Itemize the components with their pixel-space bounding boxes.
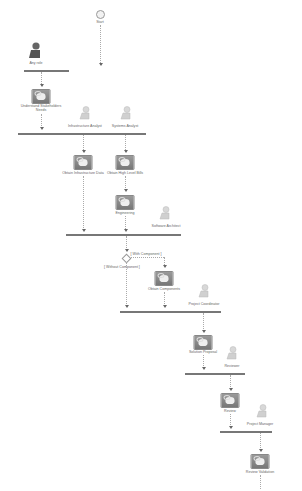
activity-icon [160, 275, 169, 282]
activity-label: Review [224, 409, 236, 413]
person-light-icon [120, 106, 132, 121]
arrow-icon [163, 265, 167, 268]
arrow-icon [124, 189, 128, 192]
start-label: Start [96, 20, 104, 24]
role-infrastructure-analyst [79, 106, 91, 125]
activity-obtain-components[interactable] [155, 271, 174, 286]
activity-understand-stakeholders[interactable] [32, 89, 51, 104]
arrow-icon [229, 388, 233, 391]
arrow-icon [259, 449, 263, 452]
guard-with-component: [ With Component ] [131, 252, 162, 256]
flow-line [125, 216, 126, 229]
arrow-icon [99, 63, 103, 66]
flow-line [164, 292, 165, 306]
start-node [96, 10, 105, 19]
arrow-icon [82, 229, 86, 232]
flow-line [260, 475, 261, 489]
activity-label: Obtain High Level Bills [107, 171, 143, 175]
sync-bar [220, 431, 272, 433]
activity-icon [199, 339, 208, 346]
activity-label: Solution Proposal [189, 350, 217, 354]
role-label: Any role [29, 61, 42, 65]
flow-line [125, 176, 126, 190]
activity-label: Obtain Infrastructure Data [62, 171, 103, 175]
arrow-icon [125, 249, 129, 252]
role-systems-analyst [120, 106, 132, 125]
flow-line [203, 313, 204, 331]
sync-bar [24, 70, 69, 72]
activity-obtain-high-level-bills[interactable] [116, 155, 135, 170]
flow-line [260, 433, 261, 450]
activity-engineering[interactable] [116, 195, 135, 210]
person-light-icon [159, 206, 171, 221]
role-project-coordinator [198, 284, 210, 303]
activity-review[interactable] [221, 393, 240, 408]
activity-icon [37, 93, 46, 100]
person-light-icon [256, 404, 268, 419]
activity-icon [121, 159, 130, 166]
sync-bar [120, 311, 221, 313]
role-project-manager [256, 404, 268, 423]
arrow-icon [124, 150, 128, 153]
arrow-icon [202, 330, 206, 333]
activity-icon [256, 458, 265, 465]
guard-without-component: [ Without Component ] [104, 265, 140, 269]
flow-line [126, 262, 127, 306]
arrow-icon [124, 229, 128, 232]
role-software-architect [159, 206, 171, 225]
person-dark-icon [28, 42, 42, 60]
flow-line [230, 375, 231, 389]
activity-icon [121, 199, 130, 206]
activity-obtain-infrastructure-data[interactable] [74, 155, 93, 170]
role-label: Project Manager [247, 422, 273, 426]
arrow-icon [125, 305, 129, 308]
arrow-icon [40, 127, 44, 130]
flow-line [126, 236, 127, 250]
activity-label: Review Validation [246, 470, 274, 474]
activity-solution-proposal[interactable] [194, 335, 213, 350]
flow-line [83, 176, 84, 230]
sync-bar [185, 373, 245, 375]
arrow-icon [229, 426, 233, 429]
activity-icon [226, 397, 235, 404]
activity-label: Obtain Components [148, 287, 180, 291]
flow-line [164, 257, 165, 265]
role-label: Infrastructure Analyst [68, 124, 102, 128]
person-light-icon [226, 346, 238, 361]
flow-line [131, 257, 164, 258]
person-light-icon [198, 284, 210, 299]
role-label: Software Architect [152, 224, 181, 228]
arrow-icon [163, 305, 167, 308]
activity-label: Understand Stakeholders Needs [21, 104, 62, 112]
flow-line [41, 114, 42, 128]
activity-label-line2: Needs [21, 108, 62, 112]
person-light-icon [79, 106, 91, 121]
arrow-icon [82, 150, 86, 153]
arrow-icon [202, 367, 206, 370]
activity-label: Engineering [115, 211, 134, 215]
sync-bar [66, 234, 181, 236]
arrow-icon [40, 84, 44, 87]
flow-line [100, 25, 101, 65]
role-label: Systems Analyst [112, 124, 138, 128]
role-label: Reviewer [225, 364, 240, 368]
role-label: Project Coordinator [189, 302, 220, 306]
activity-icon [79, 159, 88, 166]
sync-bar [18, 133, 146, 135]
activity-review-validation[interactable] [251, 454, 270, 469]
role-reviewer [226, 346, 238, 365]
